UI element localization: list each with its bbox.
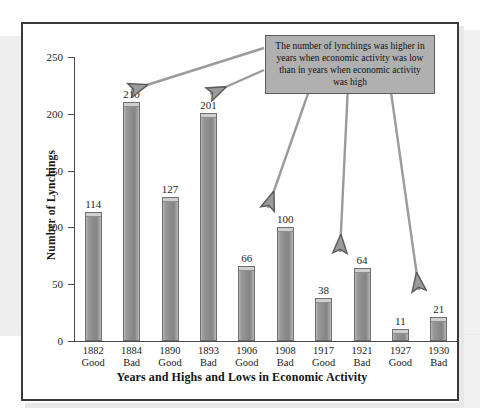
category-economy: Good bbox=[382, 357, 419, 369]
y-axis-tick-label: 200 bbox=[47, 108, 64, 120]
x-axis-category-label: 1930Bad bbox=[420, 345, 457, 369]
bar-group: 66 bbox=[228, 85, 265, 341]
y-axis-tick-mark bbox=[68, 341, 74, 342]
bar-group: 64 bbox=[344, 85, 381, 341]
x-axis-category-label: 1906Good bbox=[228, 345, 265, 369]
y-axis-tick-label: 0 bbox=[58, 335, 64, 347]
bar-value-label: 38 bbox=[318, 285, 329, 296]
bar bbox=[430, 317, 447, 341]
bar-value-label: 64 bbox=[357, 255, 368, 266]
category-economy: Good bbox=[305, 357, 342, 369]
category-year: 1884 bbox=[113, 345, 150, 357]
category-year: 1882 bbox=[75, 345, 112, 357]
x-axis-category-label: 1890Good bbox=[152, 345, 189, 369]
y-axis-tick: 150 bbox=[68, 171, 74, 172]
category-economy: Bad bbox=[113, 357, 150, 369]
y-axis-tick: 50 bbox=[68, 284, 74, 285]
bar bbox=[162, 197, 179, 341]
y-axis-tick-mark bbox=[68, 171, 74, 172]
bar-group: 11 bbox=[382, 85, 419, 341]
bar-value-label: 114 bbox=[85, 199, 101, 210]
category-economy: Good bbox=[152, 357, 189, 369]
y-axis-tick-mark bbox=[68, 284, 74, 285]
bar-group: 127 bbox=[152, 85, 189, 341]
bar bbox=[354, 268, 371, 341]
bar-value-label: 21 bbox=[433, 304, 444, 315]
figure-frame: 050100150200250 Number of Lynchings 1142… bbox=[21, 22, 459, 401]
bar bbox=[123, 102, 140, 341]
y-axis-tick: 0 bbox=[68, 341, 74, 342]
bar-group: 210 bbox=[113, 85, 150, 341]
y-axis-tick-mark bbox=[68, 227, 74, 228]
y-axis-title: Number of Lynchings bbox=[45, 130, 57, 280]
bar bbox=[238, 266, 255, 341]
bar-value-label: 100 bbox=[277, 214, 294, 225]
y-axis-tick: 250 bbox=[68, 57, 74, 58]
bar bbox=[315, 298, 332, 341]
x-axis-category-label: 1921Bad bbox=[344, 345, 381, 369]
bar-value-label: 127 bbox=[162, 184, 179, 195]
x-axis-category-label: 1893Bad bbox=[190, 345, 227, 369]
annotation-callout: The number of lynchings was higher in ye… bbox=[265, 35, 435, 94]
category-year: 1908 bbox=[267, 345, 304, 357]
bar bbox=[200, 113, 217, 341]
category-year: 1917 bbox=[305, 345, 342, 357]
category-year: 1921 bbox=[344, 345, 381, 357]
bar bbox=[85, 212, 102, 342]
x-axis-category-label: 1908Bad bbox=[267, 345, 304, 369]
category-economy: Bad bbox=[420, 357, 457, 369]
frame-shadow-bottom bbox=[25, 403, 463, 408]
chart-plot-area: 050100150200250 Number of Lynchings 1142… bbox=[23, 24, 461, 403]
category-year: 1927 bbox=[382, 345, 419, 357]
y-axis-tick-mark bbox=[68, 114, 74, 115]
bar-group: 21 bbox=[420, 85, 457, 341]
category-year: 1906 bbox=[228, 345, 265, 357]
bar-value-label: 201 bbox=[200, 100, 217, 111]
y-axis-tick: 100 bbox=[68, 227, 74, 228]
category-economy: Bad bbox=[190, 357, 227, 369]
x-axis-title: Years and Highs and Lows in Economic Act… bbox=[23, 370, 461, 385]
category-economy: Good bbox=[75, 357, 112, 369]
bar-group: 38 bbox=[305, 85, 342, 341]
x-axis-category-label: 1882Good bbox=[75, 345, 112, 369]
bar-value-label: 11 bbox=[395, 316, 406, 327]
bar bbox=[277, 227, 294, 341]
bar-value-label: 66 bbox=[241, 253, 252, 264]
y-axis-tick-mark bbox=[68, 57, 74, 58]
bar bbox=[392, 329, 409, 341]
y-axis-tick-label: 250 bbox=[47, 51, 64, 63]
bar-group: 114 bbox=[75, 85, 112, 341]
bar-group: 201 bbox=[190, 85, 227, 341]
category-economy: Bad bbox=[267, 357, 304, 369]
figure-page: 050100150200250 Number of Lynchings 1142… bbox=[0, 0, 480, 420]
scan-artifact-right bbox=[462, 30, 480, 408]
category-year: 1893 bbox=[190, 345, 227, 357]
category-year: 1890 bbox=[152, 345, 189, 357]
category-economy: Bad bbox=[344, 357, 381, 369]
y-axis-tick: 200 bbox=[68, 114, 74, 115]
category-economy: Good bbox=[228, 357, 265, 369]
x-axis-category-label: 1917Good bbox=[305, 345, 342, 369]
x-axis-line bbox=[74, 341, 458, 342]
category-year: 1930 bbox=[420, 345, 457, 357]
x-axis-category-label: 1884Bad bbox=[113, 345, 150, 369]
bar-value-label: 210 bbox=[123, 89, 140, 100]
x-axis-category-label: 1927Good bbox=[382, 345, 419, 369]
bar-group: 100 bbox=[267, 85, 304, 341]
